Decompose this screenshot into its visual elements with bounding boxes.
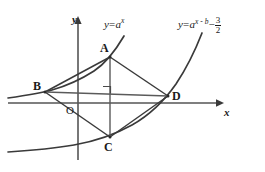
point-label-B: B bbox=[33, 80, 41, 92]
curve-2-fraction: 32 bbox=[215, 16, 222, 36]
vertex-dot-C bbox=[109, 136, 112, 139]
curve-1-equals-symbol: = bbox=[109, 18, 116, 30]
curve-2-exponent: x - b bbox=[195, 17, 208, 26]
y-axis-label: y bbox=[72, 14, 77, 25]
curve-1-exponent: x bbox=[121, 16, 124, 25]
curve-2-equation-label: y=ax - b−32 bbox=[178, 16, 221, 36]
vertex-dot-D bbox=[167, 95, 170, 98]
point-label-D: D bbox=[172, 90, 181, 102]
x-axis-arrowhead bbox=[216, 99, 224, 107]
origin-label: O bbox=[66, 105, 74, 116]
x-axis-label: x bbox=[224, 107, 230, 118]
rhombus-sides bbox=[45, 57, 168, 137]
vertex-dot-A bbox=[109, 56, 112, 59]
diagonal-BD bbox=[45, 92, 168, 96]
vertex-dot-B bbox=[44, 91, 47, 94]
segment-CD bbox=[110, 96, 168, 137]
vertex-dots bbox=[44, 56, 170, 139]
segment-DA bbox=[110, 57, 168, 96]
rhombus-diagonals bbox=[45, 57, 168, 137]
curve-2-equals-symbol: = bbox=[183, 18, 190, 30]
point-label-C: C bbox=[104, 141, 113, 153]
fraction-denominator: 2 bbox=[215, 26, 222, 35]
point-label-A: A bbox=[100, 42, 109, 54]
math-figure: y x O A B C D y=ax y=ax - b−32 bbox=[0, 0, 265, 172]
curve-1-equation-label: y=ax bbox=[104, 19, 124, 30]
